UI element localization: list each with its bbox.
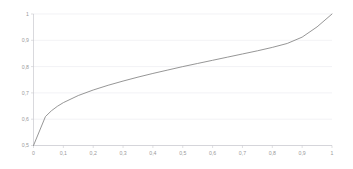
y-tick-label: 0,8: [22, 64, 29, 70]
x-tick-label: 0,8: [269, 150, 276, 156]
y-tick-label: 0,6: [22, 116, 29, 122]
x-tick-label: 0,9: [299, 150, 306, 156]
y-tick-label: 0,7: [22, 90, 29, 96]
y-tick-label: 0,5: [22, 142, 29, 148]
x-tick-label: 0,1: [60, 150, 67, 156]
y-tick-label: 1: [26, 11, 29, 17]
x-tick-label: 0,2: [90, 150, 97, 156]
x-tick-label: 0: [32, 150, 35, 156]
x-tick-label: 0,3: [119, 150, 126, 156]
x-tick-label: 1: [331, 150, 334, 156]
chart-background: [0, 0, 353, 169]
y-tick-label: 0,9: [22, 37, 29, 43]
x-tick-label: 0,5: [179, 150, 186, 156]
line-chart: 0,50,60,70,80,91 00,10,20,30,40,50,60,70…: [0, 0, 353, 169]
chart-container: 0,50,60,70,80,91 00,10,20,30,40,50,60,70…: [0, 0, 353, 169]
x-tick-label: 0,4: [149, 150, 156, 156]
x-tick-label: 0,6: [209, 150, 216, 156]
x-tick-label: 0,7: [239, 150, 246, 156]
